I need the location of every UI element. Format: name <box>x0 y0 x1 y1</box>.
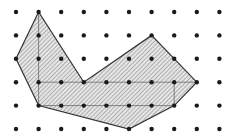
polygon-shape <box>16 12 197 129</box>
grid-dot <box>59 103 63 107</box>
grid-dot <box>14 127 18 131</box>
grid-dot <box>217 127 221 131</box>
grid-dot <box>127 80 131 84</box>
grid-dot <box>149 80 153 84</box>
grid-dot <box>217 103 221 107</box>
grid-dot <box>82 127 86 131</box>
grid-dot <box>59 33 63 37</box>
grid-dot <box>59 127 63 131</box>
grid-dot <box>149 127 153 131</box>
grid-dot <box>195 57 199 61</box>
grid-dot <box>127 57 131 61</box>
grid-dot <box>195 33 199 37</box>
grid-dot <box>36 103 40 107</box>
grid-dot <box>195 80 199 84</box>
grid-dot <box>149 10 153 14</box>
grid-dot <box>172 127 176 131</box>
grid-dot <box>149 103 153 107</box>
grid-dot <box>172 33 176 37</box>
grid-dot <box>104 33 108 37</box>
grid-dot <box>127 127 131 131</box>
grid-dot <box>36 33 40 37</box>
grid-dot <box>104 127 108 131</box>
grid-dot <box>36 10 40 14</box>
grid-dot <box>59 80 63 84</box>
grid-dot <box>217 33 221 37</box>
grid-dot <box>36 57 40 61</box>
grid-dot <box>217 10 221 14</box>
grid-dot <box>127 10 131 14</box>
grid-dot <box>172 10 176 14</box>
hatched-polygon <box>16 12 197 129</box>
grid-dot <box>172 103 176 107</box>
grid-dot <box>127 33 131 37</box>
grid-dot <box>104 80 108 84</box>
grid-dot <box>195 127 199 131</box>
grid-dot <box>104 10 108 14</box>
grid-dot <box>195 10 199 14</box>
grid-dot <box>82 103 86 107</box>
grid-dot <box>36 127 40 131</box>
grid-dot <box>149 33 153 37</box>
grid-dot <box>104 103 108 107</box>
grid-dot <box>14 33 18 37</box>
grid-dot <box>59 57 63 61</box>
grid-dot <box>172 57 176 61</box>
grid-dot <box>149 57 153 61</box>
grid-dot <box>195 103 199 107</box>
dot-grid-diagram <box>0 0 233 140</box>
grid-dot <box>82 33 86 37</box>
grid-dot <box>36 80 40 84</box>
grid-dot <box>82 80 86 84</box>
grid-dot <box>14 80 18 84</box>
grid-dot <box>172 80 176 84</box>
grid-dot <box>14 103 18 107</box>
grid-dot <box>59 10 63 14</box>
grid-dot <box>217 57 221 61</box>
grid-dot <box>82 10 86 14</box>
grid-dot <box>14 10 18 14</box>
grid-dot <box>127 103 131 107</box>
grid-dot <box>14 57 18 61</box>
grid-dot <box>104 57 108 61</box>
grid-dot <box>82 57 86 61</box>
grid-dot <box>217 80 221 84</box>
